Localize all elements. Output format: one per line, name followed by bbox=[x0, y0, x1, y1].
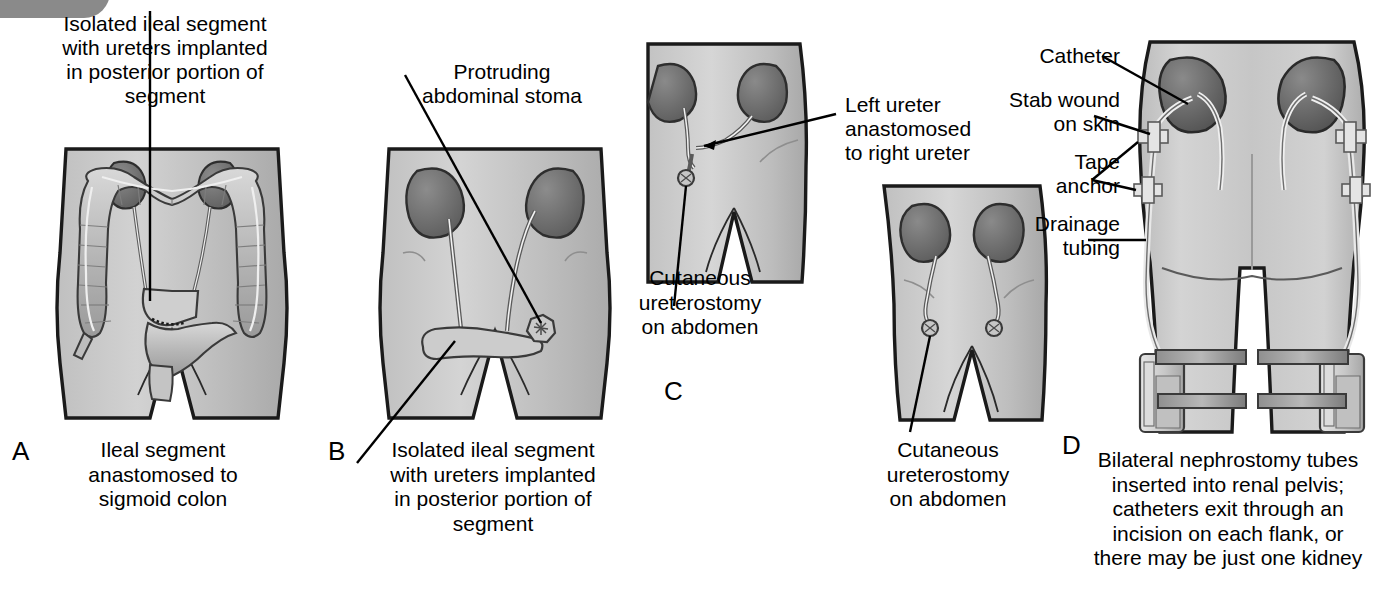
panel-a-illustration bbox=[22, 133, 322, 418]
panel-d-illustration bbox=[1122, 32, 1382, 432]
leg-strap-right-lower bbox=[1158, 394, 1246, 408]
panel-d-caption: Bilateral nephrostomy tubes inserted int… bbox=[1078, 448, 1378, 571]
kidney-left bbox=[738, 64, 787, 122]
leg-strap-left-upper bbox=[1258, 350, 1348, 364]
panel-b-caption: Isolated ileal segment with ureters impl… bbox=[358, 438, 628, 536]
panel-b-letter: B bbox=[328, 438, 345, 464]
panel-c-cutaneous-upper-label: Cutaneous ureterostomy on abdomen bbox=[600, 266, 800, 340]
kidney-right bbox=[406, 169, 464, 238]
kidney-left bbox=[526, 169, 584, 238]
stoma-folds bbox=[534, 321, 548, 335]
panel-d-svg bbox=[1122, 32, 1382, 432]
panel-c-letter: C bbox=[664, 378, 683, 404]
panel-c-cutaneous-lower-label: Cutaneous ureterostomy on abdomen bbox=[848, 438, 1048, 512]
panel-d-stab-wound-label: Stab wound on skin bbox=[920, 88, 1120, 136]
panel-a-caption: Ileal segment anastomosed to sigmoid col… bbox=[48, 438, 278, 512]
panel-d-tape-anchor-label: Tape anchor bbox=[940, 150, 1120, 198]
panel-d-drainage-tubing-label: Drainage tubing bbox=[920, 212, 1120, 260]
panel-a-svg bbox=[22, 133, 322, 418]
rectum bbox=[149, 365, 172, 401]
panel-a-top-label: Isolated ileal segment with ureters impl… bbox=[20, 12, 310, 108]
panel-c-upper-svg bbox=[648, 36, 848, 298]
panel-d-catheter-label: Catheter bbox=[920, 44, 1120, 68]
leg-strap-left-lower bbox=[1258, 394, 1346, 408]
panel-a-letter: A bbox=[12, 438, 29, 464]
leg-strap-right-upper bbox=[1156, 350, 1246, 364]
panel-c-upper-illustration bbox=[648, 36, 848, 298]
kidney-right bbox=[648, 64, 696, 122]
